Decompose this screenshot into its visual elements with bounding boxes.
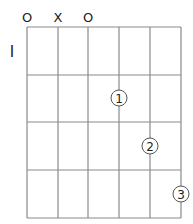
string-marker-3: O: [83, 10, 93, 25]
string-marker-2: X: [54, 10, 63, 25]
fretboard-grid: [27, 27, 181, 218]
chord-diagram: O X O I 1 2 3: [0, 0, 193, 224]
finger-marker-3: 3: [173, 186, 189, 202]
string-marker-1: O: [22, 10, 32, 25]
finger-label-2: 2: [146, 140, 154, 154]
finger-label-3: 3: [177, 188, 185, 202]
fret-number-label: I: [10, 43, 14, 61]
finger-marker-2: 2: [142, 138, 158, 154]
finger-label-1: 1: [115, 92, 123, 106]
finger-marker-1: 1: [111, 90, 127, 106]
